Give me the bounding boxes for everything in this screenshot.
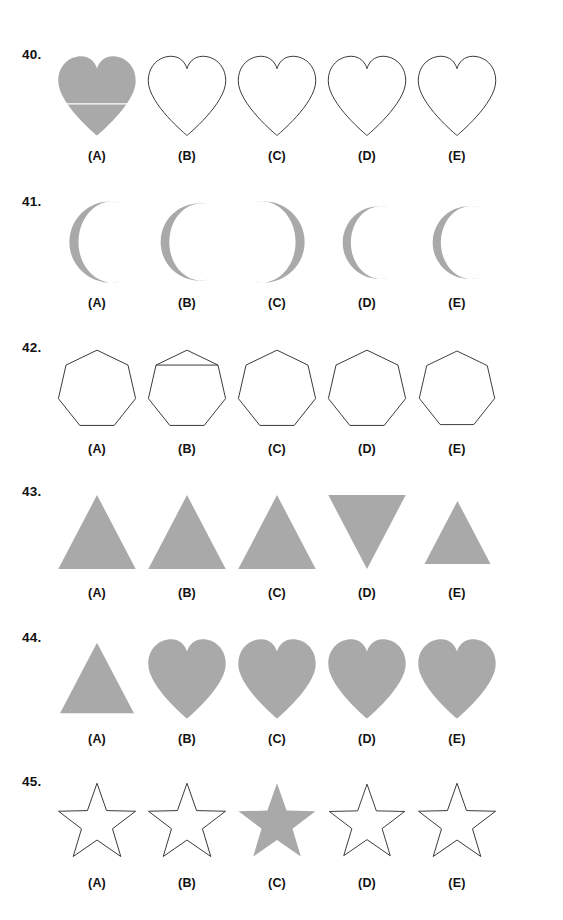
shape-figure[interactable]	[323, 482, 411, 582]
shape-figure[interactable]	[53, 772, 141, 872]
shape-figure[interactable]	[233, 772, 321, 872]
shape-figure[interactable]	[233, 45, 321, 145]
heart-path	[418, 56, 495, 135]
shape-figure[interactable]	[143, 772, 231, 872]
answer-option-B[interactable]: (B)	[142, 45, 232, 163]
answer-option-A[interactable]: (A)	[52, 628, 142, 746]
option-label: (D)	[358, 442, 376, 456]
crescent-path	[69, 202, 121, 283]
option-label: (D)	[358, 149, 376, 163]
heptagon-path	[58, 350, 135, 425]
shape-figure[interactable]	[143, 338, 231, 438]
answer-option-B[interactable]: (B)	[142, 338, 232, 456]
answer-option-A[interactable]: (A)	[52, 482, 142, 600]
shape-figure[interactable]	[143, 628, 231, 728]
heart-path	[328, 639, 405, 718]
crescent-filled-icon	[53, 198, 141, 286]
crescent-filled-icon	[328, 203, 407, 282]
answer-option-E[interactable]: (E)	[412, 772, 502, 890]
crescent-filled-icon	[233, 198, 321, 286]
answer-option-B[interactable]: (B)	[142, 482, 232, 600]
option-label: (C)	[268, 586, 286, 600]
option-label: (B)	[178, 586, 196, 600]
shape-figure[interactable]	[53, 482, 141, 582]
answer-option-A[interactable]: (A)	[52, 45, 142, 163]
shape-figure[interactable]	[420, 482, 495, 582]
heptagon-outline-icon	[53, 344, 141, 432]
answer-option-A[interactable]: (A)	[52, 192, 142, 310]
shape-figure[interactable]	[324, 772, 410, 872]
answer-option-C[interactable]: (C)	[232, 338, 322, 456]
option-label: (B)	[178, 442, 196, 456]
answer-option-D[interactable]: (D)	[322, 628, 412, 746]
triangle-filled-icon	[143, 488, 231, 576]
answer-option-E[interactable]: (E)	[412, 45, 502, 163]
answer-option-C[interactable]: (C)	[232, 482, 322, 600]
answer-option-E[interactable]: (E)	[412, 628, 502, 746]
answer-option-B[interactable]: (B)	[142, 192, 232, 310]
option-label: (E)	[448, 876, 465, 890]
shape-figure[interactable]	[328, 192, 407, 292]
shape-figure[interactable]	[233, 192, 321, 292]
answer-option-C[interactable]: (C)	[232, 192, 322, 310]
shape-figure[interactable]	[143, 482, 231, 582]
question-number: 42.	[22, 340, 41, 355]
shape-figure[interactable]	[53, 45, 141, 145]
heart-path	[238, 56, 315, 135]
crescent-path	[161, 203, 211, 280]
answer-option-C[interactable]: (C)	[232, 628, 322, 746]
crescent-path	[342, 206, 389, 279]
crescent-path	[432, 206, 479, 279]
star-path	[59, 783, 136, 856]
heart-path	[328, 56, 405, 135]
shape-figure[interactable]	[233, 338, 321, 438]
heart-path	[238, 639, 315, 718]
question-number: 43.	[22, 484, 41, 499]
shape-figure[interactable]	[323, 628, 411, 728]
heart-outline-icon	[233, 51, 321, 139]
shape-figure[interactable]	[233, 628, 321, 728]
shape-figure[interactable]	[233, 482, 321, 582]
shape-figure[interactable]	[145, 192, 229, 292]
option-label: (E)	[448, 732, 465, 746]
shape-figure[interactable]	[414, 338, 500, 438]
answer-option-D[interactable]: (D)	[322, 192, 412, 310]
shape-figure[interactable]	[143, 45, 231, 145]
answer-option-A[interactable]: (A)	[52, 772, 142, 890]
crescent-path	[252, 202, 304, 283]
shape-figure[interactable]	[53, 338, 141, 438]
shape-figure[interactable]	[413, 628, 501, 728]
heart-filled-icon	[323, 634, 411, 722]
answer-option-C[interactable]: (C)	[232, 772, 322, 890]
answer-options: (A)(B)(C)(D)(E)	[52, 772, 563, 897]
star-outline-icon	[413, 778, 501, 866]
shape-figure[interactable]	[55, 628, 139, 728]
option-label: (A)	[88, 442, 106, 456]
answer-option-E[interactable]: (E)	[412, 482, 502, 600]
shape-figure[interactable]	[418, 192, 497, 292]
heart-outline-icon	[413, 51, 501, 139]
answer-options: (A)(B)(C)(D)(E)	[52, 628, 563, 753]
shape-figure[interactable]	[323, 338, 411, 438]
answer-option-D[interactable]: (D)	[322, 482, 412, 600]
answer-options: (A)(B)(C)(D)(E)	[52, 338, 563, 463]
shape-figure[interactable]	[323, 45, 411, 145]
answer-options: (A)(B)(C)(D)(E)	[52, 45, 563, 170]
star-path	[149, 783, 226, 856]
question-row-43: 43.(A)(B)(C)(D)(E)	[0, 482, 563, 607]
option-label: (A)	[88, 732, 106, 746]
answer-option-E[interactable]: (E)	[412, 338, 502, 456]
answer-option-B[interactable]: (B)	[142, 772, 232, 890]
triangle-filled-icon	[420, 495, 495, 570]
shape-figure[interactable]	[53, 192, 141, 292]
answer-option-A[interactable]: (A)	[52, 338, 142, 456]
answer-option-D[interactable]: (D)	[322, 338, 412, 456]
answer-option-D[interactable]: (D)	[322, 772, 412, 890]
answer-option-D[interactable]: (D)	[322, 45, 412, 163]
answer-option-C[interactable]: (C)	[232, 45, 322, 163]
answer-option-B[interactable]: (B)	[142, 628, 232, 746]
shape-figure[interactable]	[413, 772, 501, 872]
shape-figure[interactable]	[413, 45, 501, 145]
question-number: 44.	[22, 630, 41, 645]
answer-option-E[interactable]: (E)	[412, 192, 502, 310]
